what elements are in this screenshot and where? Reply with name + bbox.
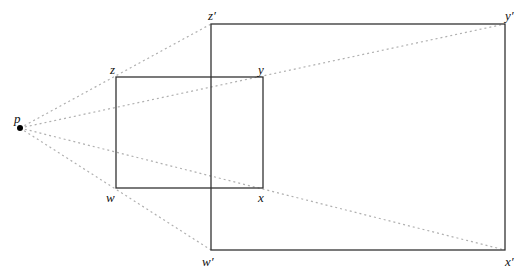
large-rectangle: [211, 24, 505, 250]
label-y-prime: y′: [503, 8, 514, 23]
label-p: p: [13, 111, 21, 126]
perspective-diagram: p z y x w z′ y′ x′ w′: [0, 0, 524, 272]
label-x-prime: x′: [504, 254, 514, 269]
label-w-prime: w′: [202, 254, 214, 269]
label-w: w: [106, 190, 115, 205]
label-y: y: [256, 62, 264, 77]
label-z-prime: z′: [207, 8, 216, 23]
label-x: x: [257, 190, 264, 205]
small-rectangle: [116, 77, 263, 188]
label-z: z: [109, 62, 115, 77]
